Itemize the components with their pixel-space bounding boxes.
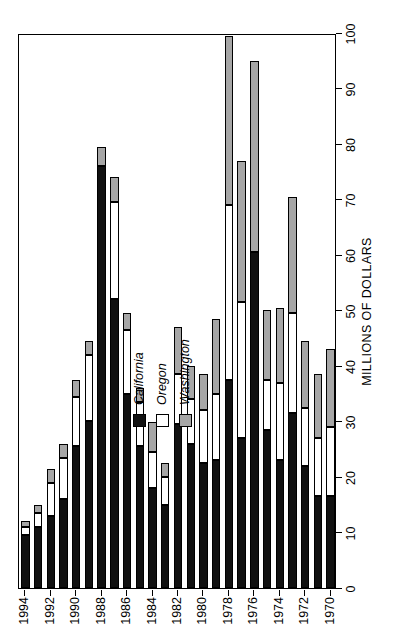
bar-segment-washington-1991 bbox=[59, 444, 67, 458]
bar-segment-california-1990 bbox=[72, 446, 80, 588]
bar-segment-oregon-1992 bbox=[47, 483, 55, 516]
value-tick-20 bbox=[336, 477, 342, 478]
chart-canvas: 0102030405060708090100 MILLIONS OF DOLLA… bbox=[0, 0, 403, 637]
bar-segment-california-1980 bbox=[199, 463, 207, 588]
value-tick-60 bbox=[336, 255, 342, 256]
legend: CaliforniaOregonWashington bbox=[132, 339, 201, 427]
bar-segment-california-1993 bbox=[34, 527, 42, 588]
value-tick-50 bbox=[336, 311, 342, 312]
value-axis-title: MILLIONS OF DOLLARS bbox=[360, 34, 374, 589]
year-tick-label-1994: 1994 bbox=[17, 597, 31, 625]
bar-segment-california-1978 bbox=[225, 380, 233, 588]
legend-item-oregon: Oregon bbox=[155, 339, 169, 427]
bar-segment-oregon-1977 bbox=[237, 302, 245, 438]
value-tick-80 bbox=[336, 144, 342, 145]
bar-segment-california-1970 bbox=[326, 496, 334, 588]
legend-item-california: California bbox=[132, 339, 146, 427]
value-tick-0 bbox=[336, 588, 342, 589]
year-tick-label-1980: 1980 bbox=[195, 597, 209, 625]
bar-segment-oregon-1971 bbox=[314, 438, 322, 496]
year-tick-1976 bbox=[253, 590, 254, 596]
bar-segment-california-1986 bbox=[123, 394, 131, 588]
value-tick-10 bbox=[336, 533, 342, 534]
bar-segment-oregon-1974 bbox=[276, 383, 284, 461]
year-tick-1978 bbox=[228, 590, 229, 596]
bar-segment-california-1981 bbox=[187, 444, 195, 588]
value-axis: 0102030405060708090100 bbox=[336, 34, 337, 589]
bar-segment-washington-1990 bbox=[72, 380, 80, 397]
year-tick-1988 bbox=[101, 590, 102, 596]
year-tick-label-1982: 1982 bbox=[170, 597, 184, 625]
category-axis: 1970197219741976197819801982198419861988… bbox=[18, 589, 336, 590]
year-tick-1994 bbox=[24, 590, 25, 596]
year-tick-label-1974: 1974 bbox=[272, 597, 286, 625]
value-tick-label-70: 70 bbox=[344, 194, 358, 208]
bar-segment-washington-1986 bbox=[123, 313, 131, 330]
bar-segment-california-1985 bbox=[136, 446, 144, 588]
year-tick-label-1976: 1976 bbox=[246, 597, 260, 625]
bar-segment-oregon-1986 bbox=[123, 330, 131, 394]
bar-segment-oregon-1972 bbox=[301, 408, 309, 466]
bar-segment-washington-1983 bbox=[161, 463, 169, 477]
bar-segment-washington-1974 bbox=[276, 308, 284, 383]
bar-segment-california-1982 bbox=[174, 424, 182, 588]
bar-segment-oregon-1994 bbox=[21, 527, 29, 535]
bar-segment-california-1973 bbox=[288, 413, 296, 588]
bar-segment-washington-1972 bbox=[301, 341, 309, 408]
bar-segment-washington-1988 bbox=[97, 147, 105, 166]
bar-segment-california-1977 bbox=[237, 438, 245, 588]
bar-segment-california-1979 bbox=[212, 460, 220, 588]
legend-swatch-washington bbox=[179, 414, 192, 427]
year-tick-1990 bbox=[75, 590, 76, 596]
bar-segment-washington-1970 bbox=[326, 349, 334, 427]
bar-segment-california-1972 bbox=[301, 466, 309, 588]
year-tick-1982 bbox=[177, 590, 178, 596]
bar-segment-oregon-1984 bbox=[148, 452, 156, 488]
bar-segment-washington-1973 bbox=[288, 197, 296, 314]
value-tick-label-50: 50 bbox=[344, 305, 358, 319]
bar-segment-oregon-1978 bbox=[225, 205, 233, 380]
year-tick-label-1970: 1970 bbox=[323, 597, 337, 625]
bar-segment-washington-1994 bbox=[21, 521, 29, 527]
chart-figure: 0102030405060708090100 MILLIONS OF DOLLA… bbox=[0, 0, 403, 637]
legend-item-washington: Washington bbox=[178, 339, 192, 427]
plot-area bbox=[18, 34, 336, 589]
year-tick-1992 bbox=[50, 590, 51, 596]
bar-segment-california-1974 bbox=[276, 460, 284, 588]
bar-segment-oregon-1987 bbox=[110, 202, 118, 299]
bar-segment-california-1991 bbox=[59, 499, 67, 588]
bar-segment-oregon-1973 bbox=[288, 313, 296, 413]
bar-segment-oregon-1989 bbox=[85, 355, 93, 422]
value-tick-label-80: 80 bbox=[344, 138, 358, 152]
year-tick-label-1990: 1990 bbox=[68, 597, 82, 625]
year-tick-label-1988: 1988 bbox=[94, 597, 108, 625]
bar-segment-california-1987 bbox=[110, 299, 118, 588]
value-tick-label-60: 60 bbox=[344, 249, 358, 263]
legend-swatch-california bbox=[133, 414, 146, 427]
legend-label-california: California bbox=[132, 352, 146, 405]
bar-segment-california-1971 bbox=[314, 496, 322, 588]
bar-segment-california-1975 bbox=[263, 430, 271, 588]
year-tick-1974 bbox=[279, 590, 280, 596]
year-tick-1972 bbox=[304, 590, 305, 596]
year-tick-label-1978: 1978 bbox=[221, 597, 235, 625]
value-tick-label-100: 100 bbox=[344, 24, 358, 45]
bar-segment-oregon-1990 bbox=[72, 397, 80, 447]
year-tick-1986 bbox=[126, 590, 127, 596]
bar-segment-washington-1993 bbox=[34, 505, 42, 513]
value-tick-label-0: 0 bbox=[344, 586, 358, 593]
value-tick-label-40: 40 bbox=[344, 360, 358, 374]
bar-segment-california-1983 bbox=[161, 505, 169, 588]
bar-segment-washington-1977 bbox=[237, 161, 245, 303]
bar-segment-oregon-1983 bbox=[161, 477, 169, 505]
bar-segment-california-1992 bbox=[47, 516, 55, 588]
value-tick-label-20: 20 bbox=[344, 471, 358, 485]
bar-segment-washington-1987 bbox=[110, 177, 118, 202]
value-tick-90 bbox=[336, 89, 342, 90]
year-tick-label-1984: 1984 bbox=[145, 597, 159, 625]
bar-segment-california-1988 bbox=[97, 166, 105, 588]
value-tick-label-30: 30 bbox=[344, 416, 358, 430]
bar-segment-oregon-1970 bbox=[326, 427, 334, 496]
year-tick-label-1986: 1986 bbox=[119, 597, 133, 625]
bar-segment-washington-1978 bbox=[225, 36, 233, 205]
